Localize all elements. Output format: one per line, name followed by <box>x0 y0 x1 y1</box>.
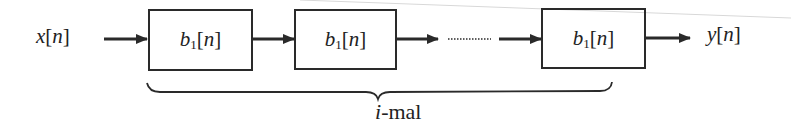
block-3: b1[n] <box>541 8 646 69</box>
block-1-label: b1[n] <box>180 27 222 53</box>
block-1: b1[n] <box>148 9 253 71</box>
block-2: b1[n] <box>294 9 397 70</box>
underbrace <box>147 82 612 99</box>
output-label: y[n] <box>707 22 741 47</box>
block-3-label: b1[n] <box>573 26 615 52</box>
block-diagram: x[n] b1[n] b1[n] b1[n] y[n] i-mal <box>0 0 791 129</box>
input-label: x[n] <box>36 24 70 49</box>
block-2-label: b1[n] <box>325 27 367 53</box>
brace-label: i-mal <box>375 99 421 125</box>
